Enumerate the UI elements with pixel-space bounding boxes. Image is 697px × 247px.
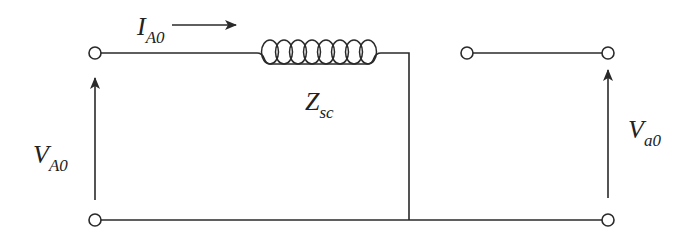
input-voltage-label: VA0 (33, 140, 68, 175)
input-terminal-top (89, 47, 101, 59)
shunt-wire (374, 53, 409, 220)
current-label: IA0 (136, 12, 165, 47)
input-terminal-bottom (89, 214, 101, 226)
open-terminal (461, 47, 473, 59)
circuit-diagram: IA0 Zsc VA0 Va0 (0, 0, 697, 247)
output-terminal-top (602, 47, 614, 59)
inductor-coil (262, 40, 377, 64)
output-terminal-bottom (602, 214, 614, 226)
impedance-label: Zsc (305, 87, 334, 122)
input-wire-top (101, 53, 264, 58)
output-voltage-label: Va0 (628, 115, 661, 150)
